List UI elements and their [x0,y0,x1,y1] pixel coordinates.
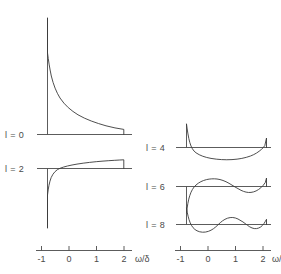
curve-l0 [48,18,124,135]
panel-l2: l = 2 [5,160,132,228]
panel-l6: l = 6 [146,178,271,213]
panel-l0-label: l = 0 [5,130,24,140]
panel-l8-label: l = 8 [146,220,165,230]
spectral-density-figure: l = 0 l = 2 -1 0 1 2 ω/δ l [0,0,281,274]
panel-l6-label: l = 6 [146,182,165,192]
left-tick-label-1: 1 [94,254,99,264]
right-tick-label--1: -1 [176,254,184,264]
left-x-axis-label: ω/δ [135,254,150,264]
panel-l4: l = 4 [146,124,271,160]
right-tick-label-1: 1 [233,254,238,264]
right-x-axis-group: -1 0 1 2 ω/δ [175,246,281,264]
figure-container: l = 0 l = 2 -1 0 1 2 ω/δ l [0,0,281,274]
left-tick-label-2: 2 [121,254,126,264]
panel-l0: l = 0 [5,18,132,140]
panel-l8: l = 8 [146,208,271,232]
curve-l8 [187,208,267,232]
left-tick-label--1: -1 [37,254,45,264]
left-x-axis-group: -1 0 1 2 ω/δ [36,246,150,264]
curve-l6 [187,178,267,213]
right-tick-label-0: 0 [205,254,210,264]
right-tick-label-2: 2 [260,254,265,264]
curve-l2 [48,160,124,228]
panel-l2-label: l = 2 [5,164,24,174]
left-tick-label-0: 0 [66,254,71,264]
right-x-axis-label: ω/δ [272,254,281,264]
panel-l4-label: l = 4 [146,143,165,153]
curve-l4 [187,124,267,160]
